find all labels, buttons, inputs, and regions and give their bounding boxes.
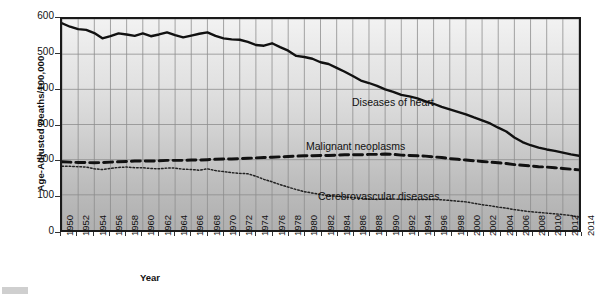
- x-tick-label-1994: 1994: [422, 215, 433, 236]
- y-tick-label-0: 0: [0, 225, 54, 236]
- x-tick-label-2008: 2008: [536, 215, 547, 236]
- x-tick-label-1956: 1956: [113, 215, 124, 236]
- x-tick-mark-1962: [158, 232, 159, 236]
- x-tick-label-1976: 1976: [276, 215, 287, 236]
- annotation-diseases-of-heart: Diseases of heart: [352, 96, 434, 108]
- x-tick-mark-1982: [321, 232, 322, 236]
- x-tick-label-1952: 1952: [80, 215, 91, 236]
- x-tick-mark-1994: [418, 232, 419, 236]
- x-tick-label-1988: 1988: [373, 215, 384, 236]
- x-tick-mark-1958: [125, 232, 126, 236]
- x-tick-label-1972: 1972: [243, 215, 254, 236]
- x-tick-mark-1956: [109, 232, 110, 236]
- x-tick-label-1980: 1980: [308, 215, 319, 236]
- x-tick-mark-1978: [288, 232, 289, 236]
- x-tick-label-1990: 1990: [390, 215, 401, 236]
- x-tick-mark-1980: [304, 232, 305, 236]
- x-tick-mark-2012: [565, 232, 566, 236]
- x-tick-mark-1996: [434, 232, 435, 236]
- x-axis-label: Year: [0, 272, 300, 283]
- page-corner-artifact: [2, 287, 28, 294]
- x-tick-label-1964: 1964: [178, 215, 189, 236]
- x-tick-label-1978: 1978: [292, 215, 303, 236]
- x-tick-label-1954: 1954: [97, 215, 108, 236]
- x-tick-mark-1968: [207, 232, 208, 236]
- x-tick-mark-1960: [141, 232, 142, 236]
- x-tick-mark-1970: [223, 232, 224, 236]
- x-tick-mark-1952: [76, 232, 77, 236]
- x-tick-label-1958: 1958: [129, 215, 140, 236]
- x-tick-label-1982: 1982: [325, 215, 336, 236]
- y-tick-label-500: 500: [0, 46, 54, 57]
- x-tick-mark-1974: [255, 232, 256, 236]
- y-tick-label-300: 300: [0, 118, 54, 129]
- x-tick-label-2002: 2002: [487, 215, 498, 236]
- annotation-malignant-neoplasms: Malignant neoplasms: [306, 140, 405, 152]
- x-tick-mark-2000: [467, 232, 468, 236]
- x-tick-mark-1988: [369, 232, 370, 236]
- x-tick-label-2004: 2004: [504, 215, 515, 236]
- x-tick-label-1970: 1970: [227, 215, 238, 236]
- annotation-cerebrovascular-diseases: Cerebrovascular diseases: [318, 190, 439, 202]
- x-tick-label-1984: 1984: [341, 215, 352, 236]
- x-tick-mark-2002: [483, 232, 484, 236]
- x-tick-label-1966: 1966: [194, 215, 205, 236]
- y-tick-label-600: 600: [0, 10, 54, 21]
- x-tick-mark-1954: [93, 232, 94, 236]
- x-tick-mark-1976: [272, 232, 273, 236]
- x-tick-label-1992: 1992: [406, 215, 417, 236]
- x-tick-mark-2008: [532, 232, 533, 236]
- x-tick-mark-1972: [239, 232, 240, 236]
- x-tick-label-1950: 1950: [64, 215, 75, 236]
- x-tick-label-2006: 2006: [520, 215, 531, 236]
- x-tick-label-2012: 2012: [569, 215, 580, 236]
- x-tick-label-1974: 1974: [259, 215, 270, 236]
- x-tick-mark-2014: [581, 232, 582, 236]
- x-tick-label-2010: 2010: [552, 215, 563, 236]
- x-tick-mark-1992: [402, 232, 403, 236]
- x-tick-mark-1986: [353, 232, 354, 236]
- x-tick-label-1998: 1998: [455, 215, 466, 236]
- x-tick-mark-1966: [190, 232, 191, 236]
- x-tick-mark-1950: [60, 232, 61, 236]
- x-tick-mark-1990: [386, 232, 387, 236]
- x-tick-mark-2010: [548, 232, 549, 236]
- x-tick-label-1960: 1960: [145, 215, 156, 236]
- x-tick-label-2014: 2014: [585, 215, 596, 236]
- x-tick-mark-1964: [174, 232, 175, 236]
- x-tick-mark-1998: [451, 232, 452, 236]
- x-tick-label-1996: 1996: [438, 215, 449, 236]
- x-tick-label-1968: 1968: [211, 215, 222, 236]
- y-tick-label-400: 400: [0, 82, 54, 93]
- x-tick-mark-1984: [337, 232, 338, 236]
- x-tick-mark-2006: [516, 232, 517, 236]
- x-tick-label-1986: 1986: [357, 215, 368, 236]
- y-tick-label-200: 200: [0, 153, 54, 164]
- x-tick-label-2000: 2000: [471, 215, 482, 236]
- chart-figure: Age-Adjusted Deaths/100,000 010020030040…: [0, 0, 597, 296]
- x-tick-mark-2004: [500, 232, 501, 236]
- y-tick-label-100: 100: [0, 189, 54, 200]
- x-tick-label-1962: 1962: [162, 215, 173, 236]
